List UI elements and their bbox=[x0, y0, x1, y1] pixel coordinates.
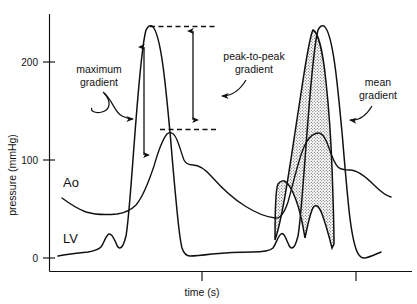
pressure-gradient-figure: 200 100 0 pressure (mmHg) time (s) bbox=[0, 0, 417, 304]
peak-to-peak-leader-arrow bbox=[222, 80, 246, 96]
figure-svg: 200 100 0 pressure (mmHg) time (s) bbox=[0, 0, 417, 304]
y-tick-label-0: 0 bbox=[32, 253, 38, 264]
y-axis-title: pressure (mmHg) bbox=[6, 134, 18, 216]
peak-to-peak-guides bbox=[150, 27, 216, 130]
axes-group: 200 100 0 pressure (mmHg) time (s) bbox=[6, 14, 412, 298]
ao-curve-label: Ao bbox=[63, 175, 79, 190]
maximum-gradient-label-line1: maximum bbox=[76, 63, 122, 75]
ao-pressure-trace bbox=[62, 133, 391, 218]
x-axis-title: time (s) bbox=[185, 286, 220, 298]
lv-curve-label: LV bbox=[63, 231, 78, 246]
mean-gradient-label-line2: gradient bbox=[359, 89, 397, 101]
maximum-gradient-leader-arrow bbox=[103, 92, 133, 119]
curve-labels: Ao LV bbox=[63, 175, 79, 246]
y-tick-label-200: 200 bbox=[21, 57, 38, 68]
peak-to-peak-label-line2: gradient bbox=[235, 63, 273, 75]
annotation-maximum-gradient: maximum gradient bbox=[76, 63, 133, 119]
annotation-peak-to-peak-gradient: peak-to-peak gradient bbox=[222, 50, 285, 96]
measurement-arrows bbox=[144, 31, 193, 155]
y-tick-label-100: 100 bbox=[21, 155, 38, 166]
mean-gradient-leader-arrow bbox=[350, 106, 372, 120]
mean-gradient-label-line1: mean bbox=[365, 76, 391, 88]
maximum-gradient-label-line2: gradient bbox=[80, 76, 118, 88]
peak-to-peak-label-line1: peak-to-peak bbox=[223, 50, 285, 62]
annotation-mean-gradient: mean gradient bbox=[350, 76, 397, 120]
